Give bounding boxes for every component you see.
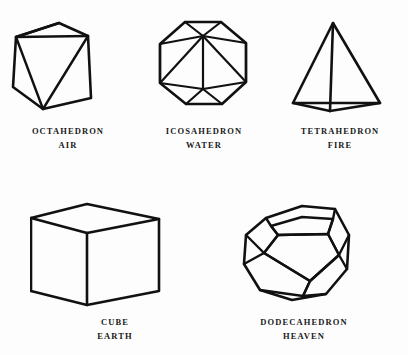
tetrahedron-outline [293, 23, 380, 103]
caption-tetrahedron: TETRAHEDRON FIRE [272, 127, 408, 150]
icosahedron-name: ICOSAHEDRON [136, 127, 272, 136]
octahedron-edge-upper-horizontal [16, 36, 88, 37]
tetrahedron-icon [272, 10, 408, 125]
platonic-solids-diagram: OCTAHEDRON AIR [0, 0, 408, 355]
icosahedron-edge-tl-to-upper-hub [185, 22, 203, 36]
icosahedron-element: WATER [136, 141, 272, 150]
dodecahedron-face-upper-left [246, 218, 278, 253]
caption-cube: CUBE EARTH [30, 318, 200, 341]
icosahedron-edge-bl-to-lower-hub [186, 89, 203, 104]
cube-icon [30, 195, 200, 315]
octahedron-figure-wrap [0, 10, 136, 125]
octahedron-name: OCTAHEDRON [0, 127, 136, 136]
solid-cell-dodecahedron: DODECAHEDRON HEAVEN [230, 195, 378, 353]
caption-icosahedron: ICOSAHEDRON WATER [136, 127, 272, 150]
icosahedron-figure-wrap [136, 10, 272, 125]
tetrahedron-element: FIRE [272, 141, 408, 150]
dodecahedron-face-center [264, 234, 339, 281]
tetrahedron-name: TETRAHEDRON [272, 127, 408, 136]
octahedron-element: AIR [0, 141, 136, 150]
solid-cell-cube: CUBE EARTH [30, 195, 200, 353]
cube-edge-top-left [31, 218, 87, 233]
dodecahedron-icon [230, 195, 378, 315]
dodecahedron-face-lower-left [244, 253, 310, 296]
caption-octahedron: OCTAHEDRON AIR [0, 127, 136, 150]
tetrahedron-figure-wrap [272, 10, 408, 125]
solid-cell-tetrahedron: TETRAHEDRON FIRE [272, 10, 408, 170]
solid-cell-octahedron: OCTAHEDRON AIR [0, 10, 136, 170]
octahedron-icon [0, 10, 136, 125]
cube-figure-wrap [30, 195, 200, 315]
caption-dodecahedron: DODECAHEDRON HEAVEN [230, 318, 378, 341]
cube-outline [31, 204, 159, 305]
icosahedron-icon [136, 10, 272, 125]
solid-cell-icosahedron: ICOSAHEDRON WATER [136, 10, 272, 170]
cube-name: CUBE [30, 318, 200, 327]
icosahedron-edge-tr-to-upper-hub [203, 22, 221, 36]
octahedron-edge-left-to-apex [16, 23, 59, 37]
dodecahedron-face-top [271, 217, 333, 235]
cube-edge-top-right [87, 219, 159, 233]
icosahedron-edge-br-to-lower-hub [203, 89, 222, 104]
tetrahedron-edge-apex-to-front [330, 23, 333, 111]
octahedron-edge-right-to-bottom [43, 36, 88, 109]
cube-element: EARTH [30, 332, 200, 341]
dodecahedron-figure-wrap [230, 195, 378, 315]
dodecahedron-element: HEAVEN [230, 332, 378, 341]
dodecahedron-name: DODECAHEDRON [230, 318, 378, 327]
